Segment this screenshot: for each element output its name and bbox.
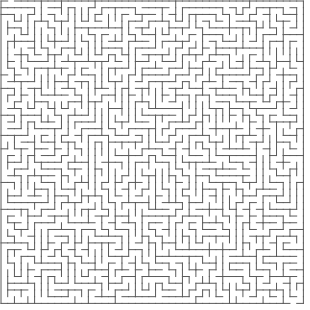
maze-board bbox=[0, 0, 310, 310]
maze-walls bbox=[1, 1, 303, 303]
maze-grid bbox=[0, 0, 310, 310]
